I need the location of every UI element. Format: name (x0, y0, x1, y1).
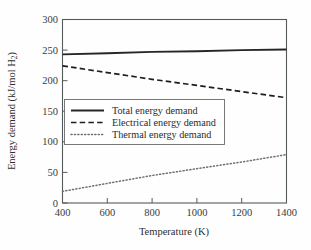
x-axis-title: Temperature (K) (139, 226, 210, 238)
x-tick-label: 400 (55, 207, 71, 218)
chart-legend: Total energy demand Electrical energy de… (65, 100, 225, 145)
legend-label-electrical: Electrical energy demand (112, 117, 216, 128)
svg-text:Energy demand (kJ/mol H2): Energy demand (kJ/mol H2) (6, 51, 19, 170)
y-tick-label: 50 (48, 167, 59, 178)
legend-label-total: Total energy demand (112, 105, 198, 116)
legend-label-thermal: Thermal energy demand (112, 129, 211, 140)
y-axis-title-tail: ) (6, 51, 18, 55)
x-tick-label: 1000 (186, 207, 207, 218)
x-tick-label: 1400 (276, 207, 297, 218)
y-tick-label: 250 (42, 45, 58, 56)
y-tick-label: 150 (42, 106, 58, 117)
line-chart: 0 50 100 150 200 250 300 400 600 800 100… (0, 0, 311, 250)
y-tick-label: 200 (42, 75, 58, 86)
y-axis-title-main: Energy demand (kJ/mol H (6, 59, 18, 170)
x-axis-ticks (63, 198, 287, 203)
x-tick-label: 800 (144, 207, 160, 218)
series-line-electrical-energy-demand (63, 66, 287, 98)
y-axis-title: Energy demand (kJ/mol H2) (6, 51, 19, 170)
x-axis-tick-labels: 400 600 800 1000 1200 1400 (55, 207, 297, 218)
series-line-total-energy-demand (63, 50, 287, 55)
y-tick-label: 100 (42, 136, 58, 147)
chart-figure: 0 50 100 150 200 250 300 400 600 800 100… (0, 0, 311, 250)
x-tick-label: 1200 (231, 207, 252, 218)
y-axis-tick-labels: 0 50 100 150 200 250 300 (42, 14, 58, 209)
series-line-thermal-energy-demand (63, 155, 287, 192)
x-tick-label: 600 (99, 207, 115, 218)
y-tick-label: 300 (42, 14, 58, 25)
